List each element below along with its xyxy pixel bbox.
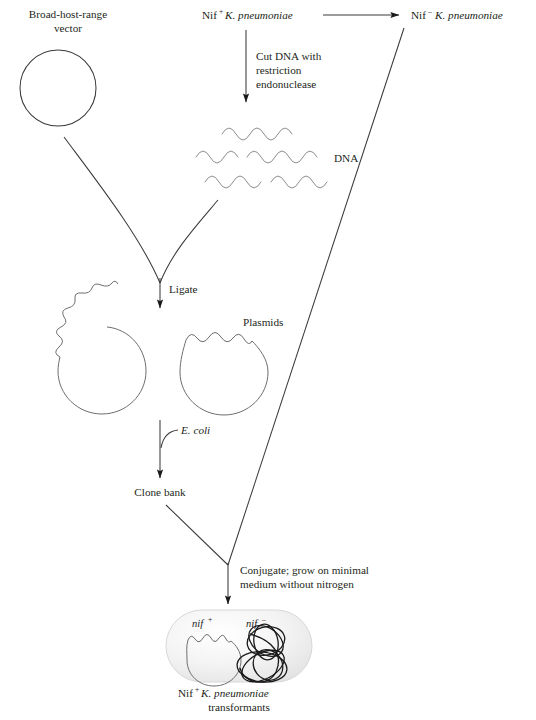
mutant-strain-superscript: –: [427, 7, 432, 16]
source-strain-prefix: Nif: [202, 9, 217, 21]
ecoli-label: E. coli: [180, 424, 210, 436]
nif-minus-superscript: –: [261, 615, 266, 624]
conjugate-line1: Conjugate; grow on minimal: [240, 564, 369, 576]
vector-label-line1: Broad-host-range: [29, 8, 107, 20]
dna-fragment: [247, 151, 317, 163]
cut-step-line3: endonuclease: [256, 78, 316, 90]
dna-label: DNA: [334, 152, 358, 164]
conjugate-line2: medium without nitrogen: [240, 578, 354, 590]
plasmids-label: Plasmids: [243, 316, 283, 328]
result-superscript: +: [195, 685, 199, 694]
cut-step-line1: Cut DNA with: [256, 50, 322, 62]
curve-dna-to-ligate: [160, 200, 218, 283]
broad-host-range-vector-circle: [20, 50, 96, 126]
clone-bank-label: Clone bank: [134, 486, 186, 498]
plasmid-left: [56, 281, 146, 414]
dna-fragment: [271, 176, 327, 188]
cut-step-line2: restriction: [256, 64, 302, 76]
result-caption-line2: transformants: [208, 701, 270, 713]
curve-ecoli-pointer: [161, 430, 178, 448]
mutant-strain-prefix: Nif: [411, 9, 426, 21]
source-strain-superscript: +: [219, 7, 223, 16]
figure-canvas: Broad-host-range vector Nif + K. pneumon…: [0, 0, 536, 720]
mutant-strain-species: K. pneumoniae: [434, 9, 503, 21]
dna-fragments-group: [196, 128, 327, 188]
line-clonebank-to-conjugate: [166, 505, 228, 565]
ligate-label: Ligate: [169, 283, 198, 295]
line-mutant-to-conjugate: [228, 28, 404, 565]
source-strain-species: K. pneumoniae: [224, 9, 293, 21]
result-species: K. pneumoniae: [200, 687, 269, 699]
result-caption: Nif + K. pneumoniae transformants: [178, 685, 270, 713]
dna-fragment: [222, 128, 292, 140]
mutant-strain-label: Nif – K. pneumoniae: [411, 7, 503, 21]
nif-plus-superscript: +: [208, 615, 212, 624]
source-strain-label: Nif + K. pneumoniae: [202, 7, 293, 21]
vector-label-line2: vector: [54, 22, 82, 34]
nif-cloning-diagram: Broad-host-range vector Nif + K. pneumon…: [0, 0, 536, 720]
result-prefix: Nif: [178, 687, 193, 699]
plasmid-right: [180, 333, 268, 416]
dna-fragment: [196, 151, 238, 163]
dna-fragment: [205, 176, 261, 188]
curve-vector-to-ligate: [64, 137, 160, 283]
